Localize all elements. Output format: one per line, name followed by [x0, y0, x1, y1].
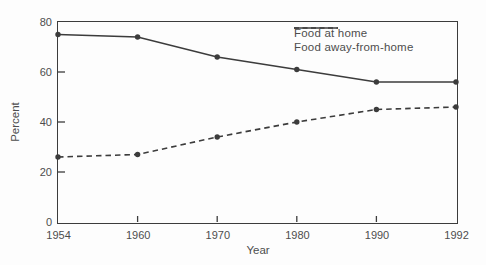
x-tick-label: 1980: [285, 229, 309, 242]
y-tick-label: 60: [26, 66, 52, 79]
y-tick-label: 20: [26, 166, 52, 179]
x-tick-label: 1970: [206, 229, 230, 242]
legend: Food at home Food away-from-home: [294, 26, 413, 54]
x-tick-label: 1992: [444, 229, 468, 242]
dashed-line-icon: [294, 26, 338, 30]
y-tick-label: 80: [26, 16, 52, 29]
y-axis-title: Percent: [9, 102, 21, 142]
x-tick-label: 1960: [126, 229, 150, 242]
x-axis-title: Year: [246, 244, 269, 256]
chart-figure: Percent Food at home Food away-from-home…: [0, 0, 486, 265]
x-tick-label: 1990: [365, 229, 389, 242]
plot-area: Food at home Food away-from-home: [57, 21, 458, 224]
y-tick-label: 0: [26, 216, 52, 229]
y-tick-label: 40: [26, 116, 52, 129]
legend-label-food-away-from-home: Food away-from-home: [294, 41, 413, 53]
x-tick-label: 1954: [46, 229, 70, 242]
legend-item-food-away-from-home: Food away-from-home: [294, 40, 413, 54]
